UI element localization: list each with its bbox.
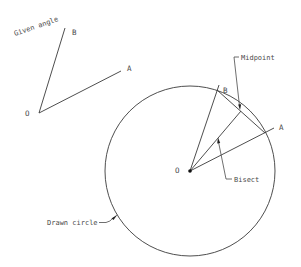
given-label-b: B: [72, 28, 77, 37]
given-angle-figure: Given angle B A O: [13, 15, 132, 118]
label-a: A: [279, 123, 284, 132]
bisect-label: Bisect: [234, 176, 259, 184]
construction-figure: B A O Midpoint Bisect Drawn circle: [47, 54, 284, 257]
given-angle-title: Given angle: [13, 15, 59, 38]
angle-bisection-diagram: Given angle B A O B A O Midpoint Bisect: [0, 0, 301, 267]
vertex-dot: [188, 169, 192, 173]
bisect-leader: [219, 142, 233, 179]
bisect-callout: Bisect: [217, 138, 259, 184]
label-o: O: [175, 166, 180, 175]
bisector-line: [190, 111, 241, 171]
given-label-a: A: [127, 64, 132, 73]
given-ray-ob: [39, 28, 65, 113]
label-b: B: [223, 86, 228, 95]
drawn-circle-label: Drawn circle: [47, 219, 98, 227]
midpoint-label: Midpoint: [241, 54, 275, 62]
drawn-circle-leader: [99, 218, 114, 223]
midpoint-callout: Midpoint: [234, 54, 275, 111]
given-ray-oa: [39, 71, 121, 113]
drawn-circle-callout: Drawn circle: [47, 215, 118, 228]
given-label-o: O: [25, 109, 30, 118]
